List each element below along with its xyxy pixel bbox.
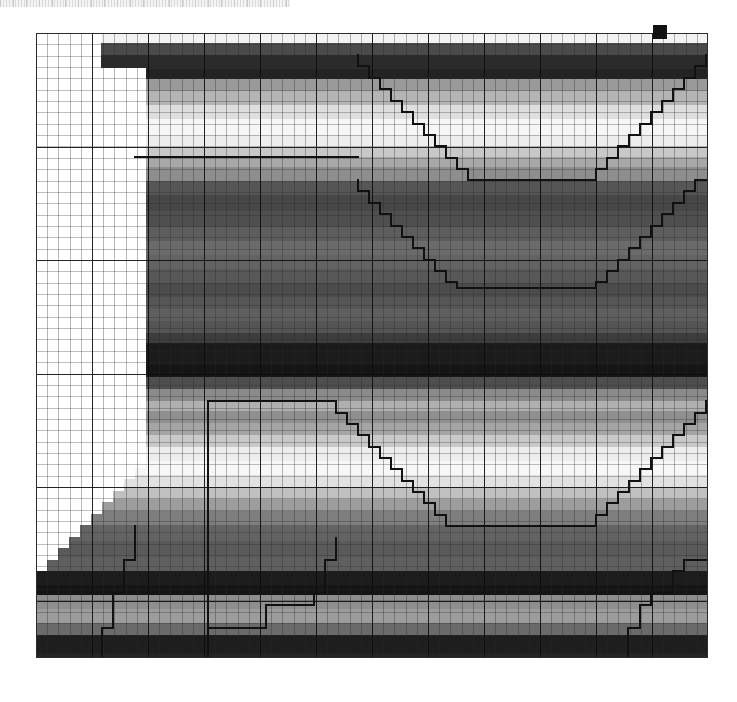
striped-ruler-strip — [0, 0, 290, 7]
mask-step — [36, 548, 58, 560]
mask-step — [36, 502, 102, 514]
mask-step — [36, 468, 135, 479]
mask-step — [36, 560, 47, 571]
mask-step — [36, 479, 124, 491]
mask-step — [36, 33, 101, 68]
mask-step — [36, 68, 146, 155]
mask-step — [36, 514, 91, 525]
mask-step — [36, 446, 146, 468]
mask-step — [36, 155, 146, 446]
mask-step — [36, 537, 69, 548]
heatmap-plot[interactable] — [36, 33, 708, 658]
mask-step — [36, 491, 113, 502]
white-mask-layer — [36, 33, 708, 658]
mask-step — [36, 525, 80, 537]
ruler-major-ticks — [0, 0, 290, 7]
top-right-dark-square — [653, 25, 667, 39]
raster-plot-page — [0, 0, 737, 702]
